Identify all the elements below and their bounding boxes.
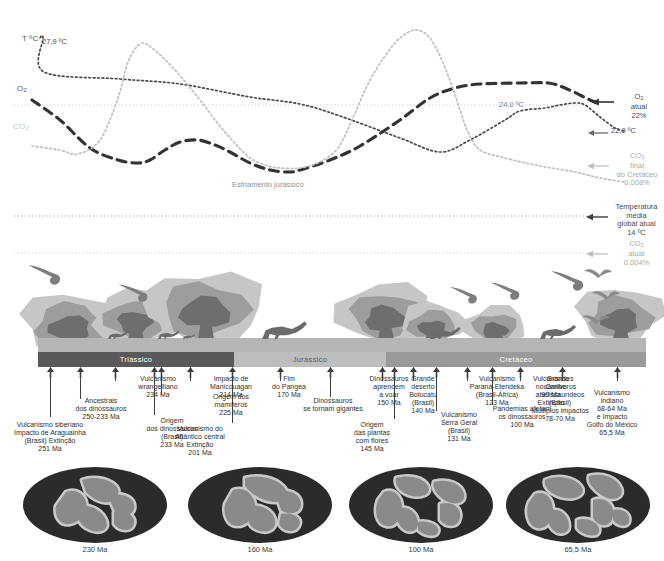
- event-label-line: 251 Ma: [0, 445, 110, 453]
- co2-axis-label: CO2: [13, 122, 29, 131]
- temp22-callout-arrow: [588, 127, 610, 139]
- geologic-period-bar: TriássicoJurássicoCretáceo: [38, 352, 646, 367]
- climate-chart: T ºC O2 CO2 27,9 ºC 24,0 ºC Esfriamento …: [0, 0, 664, 235]
- o2-present-day-callout: O2atual22%: [616, 93, 662, 120]
- start-temperature-value: 27,9 ºC: [42, 37, 67, 46]
- event-label-line: Vulcanismo do: [140, 425, 260, 433]
- map-230ma[interactable]: [22, 466, 168, 544]
- map-100ma[interactable]: [348, 466, 494, 544]
- period-label: Jurássico: [293, 355, 327, 364]
- period-label: Triássico: [120, 355, 152, 364]
- map-caption: 160 Ma: [187, 545, 333, 554]
- global-temp-callout-arrow: [586, 211, 610, 223]
- event-label-line: dos dinossauros: [41, 405, 161, 413]
- event-label-line: Atlântico central: [140, 433, 260, 441]
- meteor-icon: [551, 271, 583, 291]
- event-label-vulcanismo-atlantico-central: Vulcanismo doAtlântico centralExtinção20…: [140, 425, 260, 457]
- reference-lines: [14, 105, 600, 253]
- event-label-line: Vulcanismo siberiano: [0, 421, 110, 429]
- temp-22-callout: 22,0 ºC: [611, 127, 661, 136]
- meteor-icon: [28, 265, 60, 285]
- period-cretaceo[interactable]: Cretáceo: [386, 352, 646, 367]
- volcano-plume: [402, 301, 469, 345]
- co2-end-cretaceous-callout: CO2finaldo Cretáceo0,008%: [610, 152, 664, 188]
- paleomap-svg: [505, 466, 651, 544]
- event-label-line: 65,5 Ma: [552, 429, 664, 437]
- meteor-icon: [490, 282, 519, 300]
- series-lines: [32, 30, 624, 182]
- event-label-line: 145 Ma: [312, 445, 432, 453]
- infographic-root: T ºC O2 CO2 27,9 ºC 24,0 ºC Esfriamento …: [0, 0, 664, 561]
- event-label-line: Vulcanismo: [552, 389, 664, 397]
- series-o2: [32, 83, 600, 172]
- event-markers: Vulcanismo siberianoImpacto de Araguainh…: [0, 367, 664, 465]
- map-caption: 230 Ma: [22, 545, 168, 554]
- series-temperatura: [38, 35, 624, 152]
- event-label-line: 131 Ma: [399, 435, 519, 443]
- event-label-line: (Brasil) Extinção: [0, 437, 110, 445]
- paleomap-svg: [348, 466, 494, 544]
- map-160ma[interactable]: [187, 466, 333, 544]
- event-label-vulcanismo-siberiano: Vulcanismo siberianoImpacto de Araguainh…: [0, 421, 110, 453]
- event-stem-ancestrais-dinossauros: [80, 377, 81, 399]
- oxygen-axis-label: O2: [17, 84, 27, 93]
- event-label-line: Grandes: [500, 375, 620, 383]
- illustration-band: [0, 235, 664, 353]
- event-label-line: Origem: [112, 417, 232, 425]
- dinosaur-silhouette: [262, 322, 307, 340]
- dinosaur-silhouette: [540, 325, 576, 339]
- period-jurassico[interactable]: Jurássico: [234, 352, 386, 367]
- event-stem-origem-dinossauros-brasil: [154, 377, 155, 415]
- chart-svg: [0, 0, 664, 268]
- map-655ma[interactable]: [505, 466, 651, 544]
- pterosaur-silhouette: [584, 269, 612, 278]
- late-temperature-value: 24,0 ºC: [499, 100, 524, 109]
- event-label-line: e Impacto: [552, 413, 664, 421]
- map-caption: 100 Ma: [348, 545, 494, 554]
- paleogeography-maps: 230 Ma160 Ma100 Ma65,5 Ma: [0, 466, 664, 561]
- jurassic-cooling-annotation: Esfriamento jurássico: [232, 180, 304, 189]
- event-label-line: 68-64 Ma: [552, 405, 664, 413]
- volcano-plume: [461, 305, 524, 344]
- event-label-line: Golfo do México: [552, 421, 664, 429]
- event-label-line: indiano: [552, 397, 664, 405]
- paleomap-svg: [187, 466, 333, 544]
- temperature-axis-label: T ºC: [22, 34, 38, 43]
- event-stem-vulcanismo-indiano: [617, 377, 618, 381]
- period-label: Cretáceo: [500, 355, 533, 364]
- event-label-line: Extinção: [140, 441, 260, 449]
- event-label-line: 201 Ma: [140, 449, 260, 457]
- paleomap-svg: [22, 466, 168, 544]
- period-triassico[interactable]: Triássico: [38, 352, 234, 367]
- event-stem-origem-mamiferos: [161, 377, 162, 395]
- o2-callout-arrow: [592, 95, 616, 109]
- event-label-vulcanismo-indiano: Vulcanismoindiano68-64 Mae ImpactoGolfo …: [552, 389, 664, 437]
- meteor-icon: [450, 287, 477, 304]
- ground-strip: [38, 338, 646, 353]
- co2-cretaceous-callout-arrow: [587, 160, 611, 172]
- map-caption: 65,5 Ma: [505, 545, 651, 554]
- global-mean-temp-callout: Temperaturamédiaglobal atual14 ºC: [609, 203, 664, 237]
- event-label-line: Impacto de Araguainha: [0, 429, 110, 437]
